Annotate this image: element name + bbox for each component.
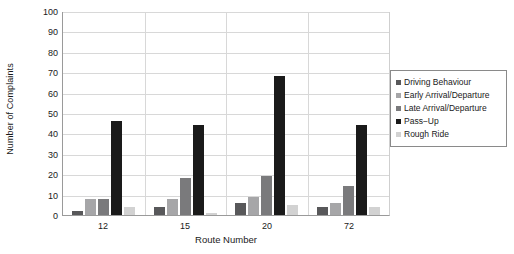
x-axis-tick: 72 [308,220,390,232]
legend-swatch-icon [396,80,401,85]
legend: Driving BehaviourEarly Arrival/Departure… [390,70,507,147]
bar-group [226,12,308,215]
bar-group [308,12,390,215]
y-axis-tick: 90 [32,28,58,37]
bar [124,207,135,215]
y-axis-tick: 50 [32,110,58,119]
bar [180,178,191,215]
x-axis-tick: 15 [144,220,226,232]
bar [274,76,285,215]
x-axis-tick: 12 [62,220,144,232]
legend-item[interactable]: Pass−Up [396,115,502,128]
y-axis-tick: 0 [32,212,58,221]
y-axis-tick: 10 [32,191,58,200]
bar [72,211,83,215]
bar [343,186,354,215]
legend-item[interactable]: Late Arrival/Departure [396,102,502,115]
legend-label: Driving Behaviour [404,76,471,89]
legend-swatch-icon [396,119,401,124]
bar [98,199,109,215]
legend-label: Rough Ride [404,128,449,141]
bar [330,203,341,215]
bar-group [63,12,145,215]
bar [356,125,367,215]
y-axis-tick: 80 [32,48,58,57]
legend-item[interactable]: Early Arrival/Departure [396,89,502,102]
bar-groups [63,12,389,215]
legend-item[interactable]: Driving Behaviour [396,76,502,89]
y-axis-tick: 70 [32,69,58,78]
bar [235,203,246,215]
y-axis-tick: 60 [32,89,58,98]
bar [85,199,96,215]
legend-swatch-icon [396,132,401,137]
y-axis-tick: 30 [32,150,58,159]
legend-label: Late Arrival/Departure [404,102,487,115]
y-axis-title: Number of Complaints [0,0,20,218]
y-axis-title-label: Number of Complaints [5,63,15,155]
plot-area [62,12,390,216]
y-axis-tick: 100 [32,8,58,17]
bar [167,199,178,215]
bar [261,176,272,215]
x-axis-tick: 20 [226,220,308,232]
x-axis-title: Route Number [62,234,390,246]
bar [154,207,165,215]
bar [369,207,380,215]
bar-group [145,12,227,215]
bar [287,205,298,215]
y-axis-tick-labels: 0102030405060708090100 [28,12,58,216]
bar [206,213,217,215]
bar [193,125,204,215]
legend-swatch-icon [396,106,401,111]
bar [317,207,328,215]
legend-item[interactable]: Rough Ride [396,128,502,141]
y-axis-tick: 40 [32,130,58,139]
x-axis-tick-labels: 12152072 [62,220,390,232]
bar [248,197,259,215]
y-axis-tick: 20 [32,171,58,180]
bar [111,121,122,215]
legend-swatch-icon [396,93,401,98]
legend-label: Early Arrival/Departure [404,89,490,102]
legend-label: Pass−Up [404,115,439,128]
bar-chart: Number of Complaints 0102030405060708090… [0,0,514,254]
